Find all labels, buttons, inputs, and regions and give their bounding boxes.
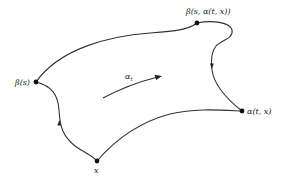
point-x [95, 159, 100, 164]
label-flow-alpha: αt [125, 72, 133, 82]
flow-arrowhead-icon [155, 75, 163, 80]
flow-diagram: β(s) β(s, α(t, x)) α(t, x) x αt [0, 0, 286, 178]
label-beta-s-alpha: β(s, α(t, x)) [185, 7, 231, 16]
label-beta-s: β(s) [14, 78, 30, 87]
curve-beta-s-to-x [36, 82, 97, 161]
point-beta-s-alpha [195, 21, 200, 26]
point-beta-s [34, 80, 39, 85]
label-x: x [94, 166, 99, 175]
curve-beta-s-alpha-to-alpha-tx [197, 22, 242, 111]
flow-label-subscript: t [130, 76, 133, 82]
point-alpha-tx [240, 109, 245, 114]
curve-x-to-alpha-tx [97, 110, 242, 161]
label-alpha-tx: α(t, x) [247, 107, 271, 116]
arrow-right-curve-icon [210, 64, 214, 70]
curve-beta-s-to-beta-s-alpha [36, 23, 197, 82]
